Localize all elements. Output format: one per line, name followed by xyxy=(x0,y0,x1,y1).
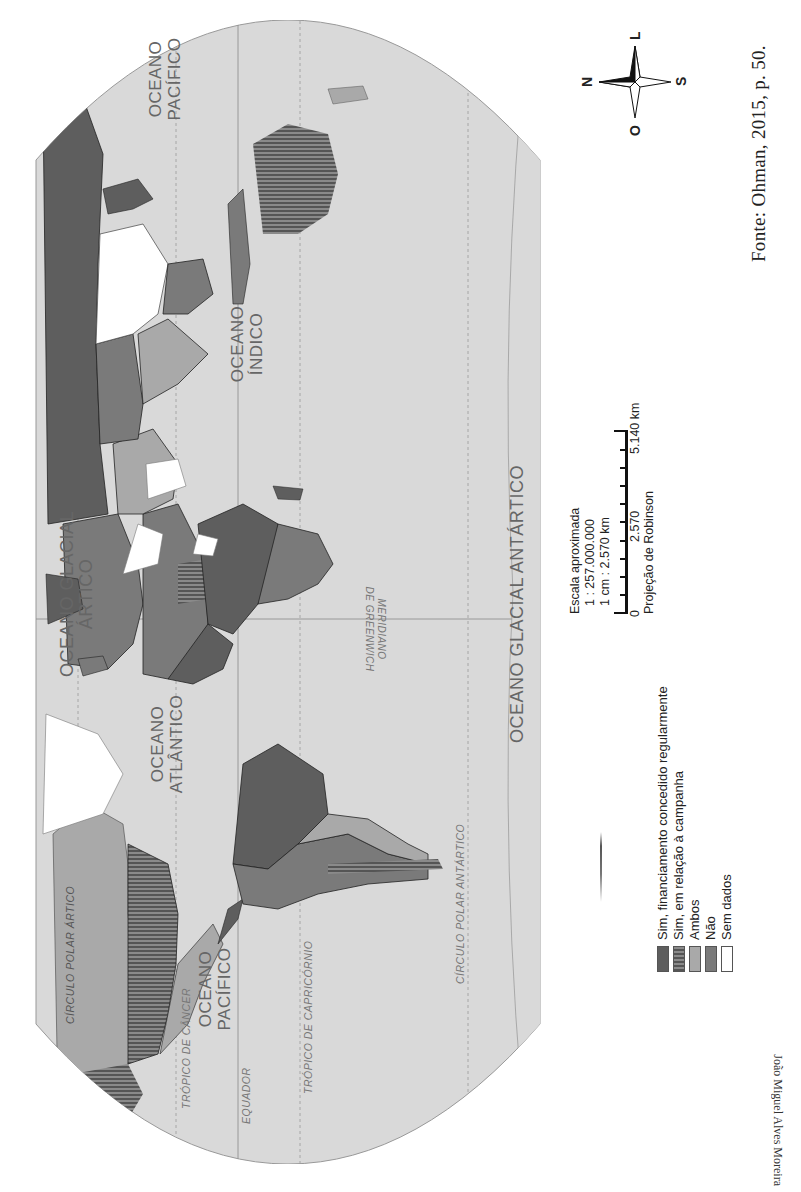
legend-item-both: Ambos xyxy=(687,686,702,972)
legend-swatch-no-data xyxy=(721,946,733,972)
scale-tick-0: 0 xyxy=(628,610,643,617)
source-citation: Fonte: Ohman, 2015, p. 50. xyxy=(748,45,770,262)
legend-swatch-regular xyxy=(657,946,669,972)
scale-ratio: 1 : 257.000.000 xyxy=(583,384,598,614)
compass-north: N xyxy=(579,77,595,87)
label-arctic-ocean: OCEANO GLACIAL ÁRTICO xyxy=(58,479,96,709)
compass-east: L xyxy=(627,31,643,40)
label-indian-ocean: OCEANO ÍNDICO xyxy=(228,294,266,394)
world-map-svg xyxy=(28,20,548,1164)
legend-label: Sem dados xyxy=(719,874,734,940)
world-map: OCEANO GLACIAL ÁRTICO OCEANO ATLÂNTICO O… xyxy=(28,20,548,1164)
label-tropic-cancer: TRÓPICO DE CÂNCER xyxy=(180,988,192,1109)
scale-tick-2: 5.140 km xyxy=(628,403,643,454)
legend-swatch-no xyxy=(705,946,717,972)
label-meridian-line2: DE GREENWICH xyxy=(363,564,375,694)
legend-item-no-data: Sem dados xyxy=(719,686,734,972)
scale-tick-labels: 0 2.570 5.140 km xyxy=(628,384,642,614)
label-indian-line2: ÍNDICO xyxy=(247,294,266,394)
compass-west: O xyxy=(627,125,643,136)
label-pacific-west-line1: OCEANO xyxy=(196,934,215,1044)
label-atlantic-ocean-line2: ATLÂNTICO xyxy=(167,689,186,799)
label-tropic-capricorn: TRÓPICO DE CAPRICÓRNIO xyxy=(302,941,314,1094)
legend-item-campaign: Sim, em relação à campanha xyxy=(671,686,686,972)
compass-south: S xyxy=(673,77,689,86)
label-pacific-west-line2: PACÍFICO xyxy=(215,934,234,1044)
compass-rose: N S O L xyxy=(585,32,685,132)
label-atlantic-ocean: OCEANO ATLÂNTICO xyxy=(148,689,186,799)
legend-swatch-both xyxy=(689,946,701,972)
legend-label: Sim, financiamento concedido regularment… xyxy=(655,686,670,940)
legend-label: Ambos xyxy=(687,900,702,940)
projection-label: Projeção de Robinson xyxy=(642,384,657,614)
legend-swatch-campaign xyxy=(673,946,685,972)
label-pacific-ocean-east: OCEANO PACÍFICO xyxy=(146,34,184,124)
scale-title: Escala aproximada xyxy=(568,384,583,614)
label-equator: EQUADOR xyxy=(240,1067,252,1124)
label-pacific-ocean-west: OCEANO PACÍFICO xyxy=(196,934,234,1044)
map-page: OCEANO GLACIAL ÁRTICO OCEANO ATLÂNTICO O… xyxy=(0,0,801,1192)
scale-tick-1: 2.570 xyxy=(628,511,643,542)
compass-icon xyxy=(585,32,685,132)
legend-label: Não xyxy=(703,916,718,940)
label-meridian-line1: MERIDIANO xyxy=(375,564,387,694)
author-credit: João Miguel Alves Moreira xyxy=(770,1054,785,1186)
map-scale: Escala aproximada 1 : 257.000.000 1 cm :… xyxy=(568,384,657,614)
label-pacific-east-line1: OCEANO xyxy=(146,34,165,124)
label-antarctic-circle: CÍRCULO POLAR ANTÁRTICO xyxy=(454,824,466,984)
scale-cm: 1 cm : 2.570 km xyxy=(598,384,613,614)
map-legend: Sim, financiamento concedido regularment… xyxy=(655,686,735,972)
label-antarctic-ocean: OCEANO GLACIAL ANTÁRTICO xyxy=(508,454,527,754)
legend-item-regular: Sim, financiamento concedido regularment… xyxy=(655,686,670,972)
label-atlantic-ocean-line1: OCEANO xyxy=(148,689,167,799)
label-pacific-east-line2: PACÍFICO xyxy=(165,34,184,124)
label-greenwich-meridian: MERIDIANO DE GREENWICH xyxy=(363,564,387,694)
scan-smudge xyxy=(600,832,602,902)
legend-item-no: Não xyxy=(703,686,718,972)
legend-label: Sim, em relação à campanha xyxy=(671,771,686,940)
label-arctic-circle: CÍRCULO POLAR ÁRTICO xyxy=(64,886,76,1024)
scale-bar xyxy=(614,430,628,614)
label-indian-line1: OCEANO xyxy=(228,294,247,394)
